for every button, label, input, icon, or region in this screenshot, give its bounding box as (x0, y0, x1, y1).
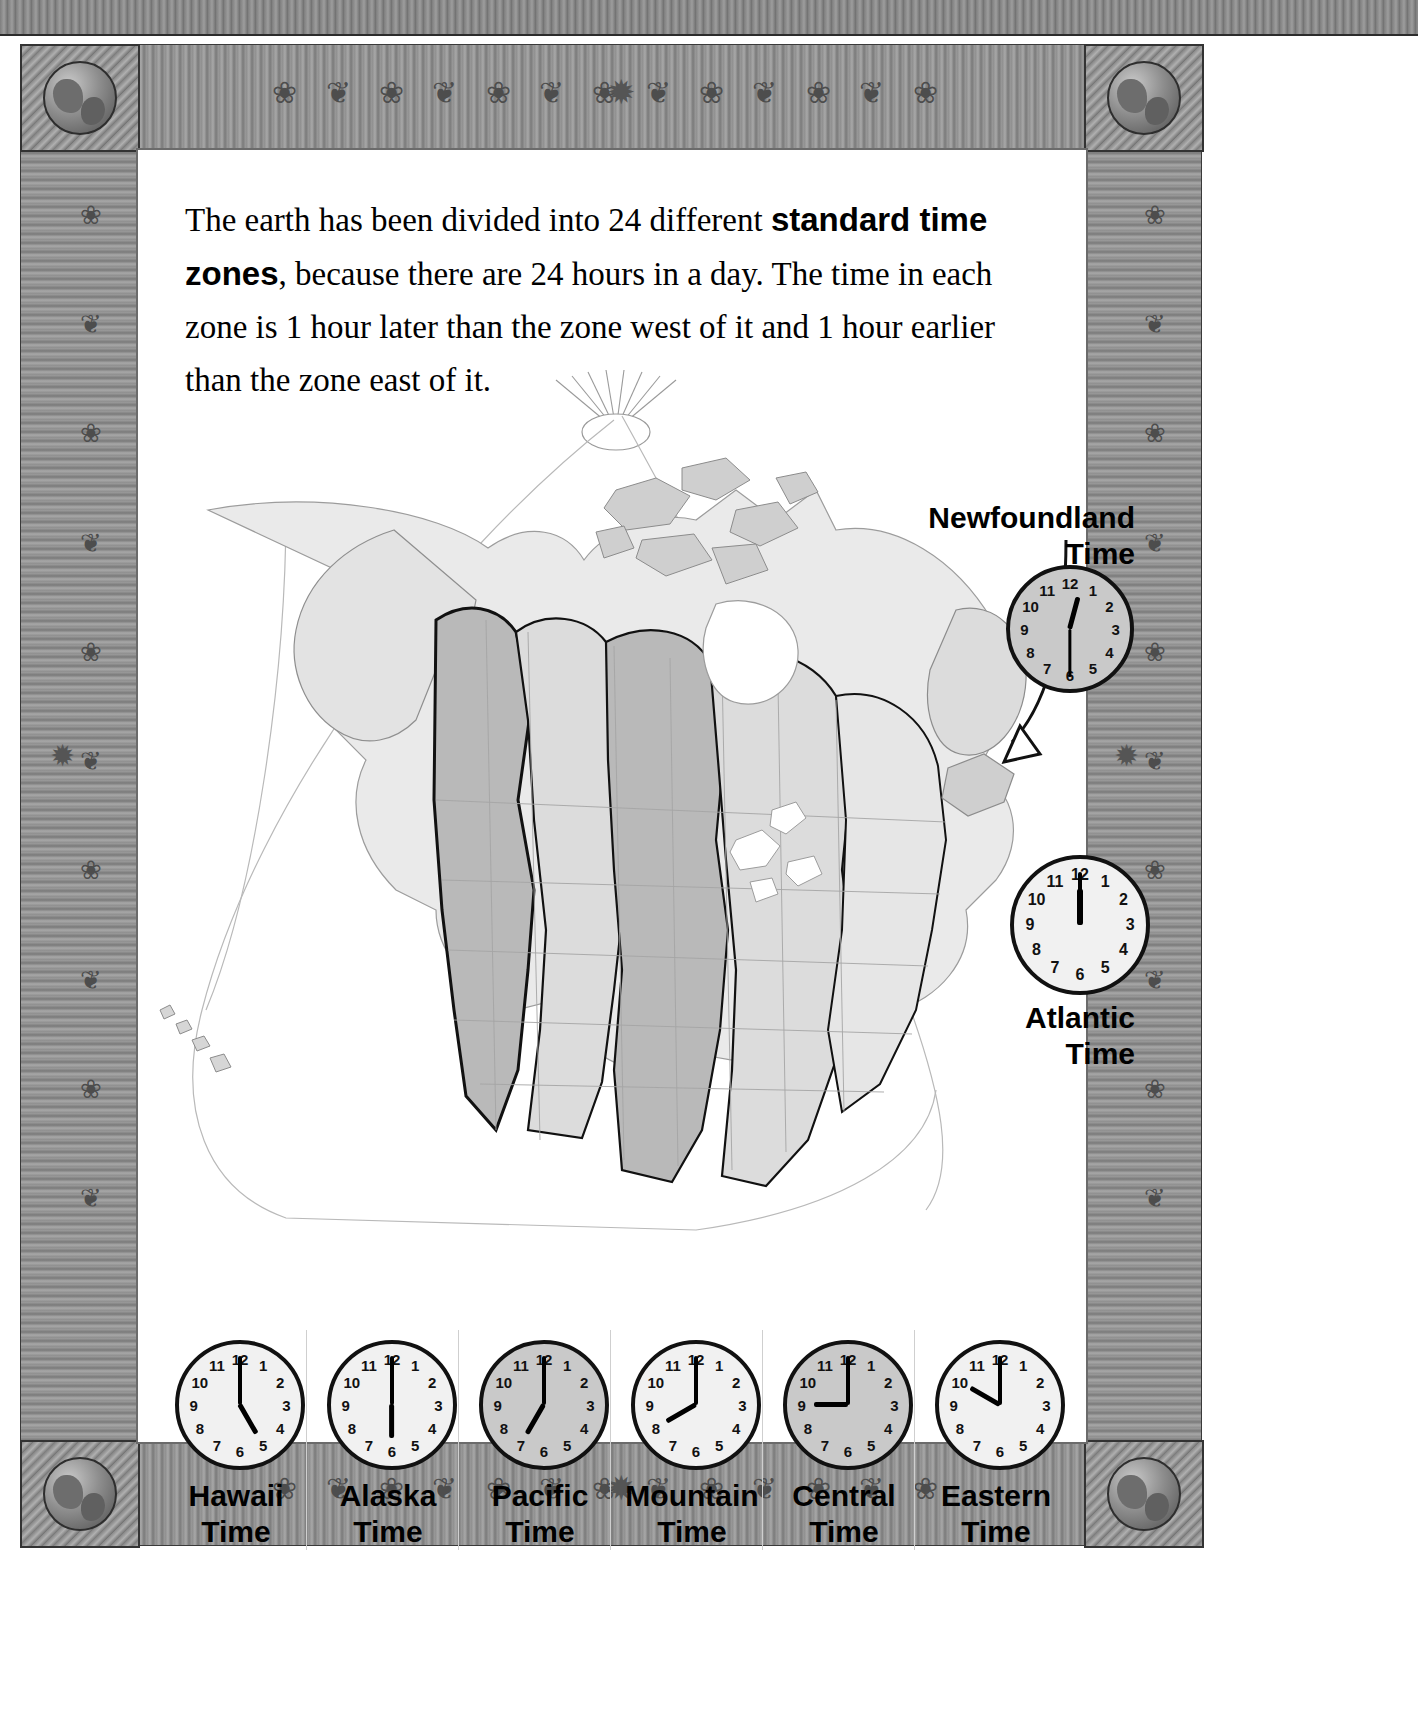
clock-numeral-11: 11 (817, 1356, 833, 1373)
clock-numeral-3: 3 (738, 1397, 746, 1414)
clock-minute-hand (846, 1356, 849, 1405)
clock-holder-alaska: 121234567891011 (312, 1340, 464, 1462)
clock-numeral-2: 2 (1105, 598, 1113, 615)
clock-numeral-4: 4 (732, 1420, 740, 1437)
clock-numeral-6: 6 (540, 1443, 548, 1460)
clock-numeral-1: 1 (1101, 873, 1110, 891)
clock-numeral-10: 10 (800, 1373, 817, 1390)
corner-globe-bottom-right (1084, 1440, 1204, 1548)
clock-numeral-11: 11 (969, 1356, 985, 1373)
clock-numeral-1: 1 (867, 1356, 875, 1373)
clock-numeral-6: 6 (1076, 966, 1085, 984)
clock-numeral-1: 1 (411, 1356, 419, 1373)
clock-minute-hand (694, 1356, 697, 1405)
zone-label-line2-atlantic: Time (900, 1036, 1135, 1072)
clock-numeral-3: 3 (890, 1397, 898, 1414)
sun-icon (556, 370, 676, 450)
clock-numeral-11: 11 (513, 1356, 529, 1373)
clock-hour-hand (389, 1405, 394, 1439)
clock-numeral-5: 5 (867, 1437, 875, 1454)
clock-numeral-6: 6 (844, 1443, 852, 1460)
clock-hour-hand (525, 1404, 546, 1436)
zone-label-alaska: AlaskaTime (312, 1478, 464, 1550)
clock-hour-hand (1068, 596, 1081, 629)
zone-card-central[interactable]: 121234567891011CentralTime (768, 1340, 920, 1550)
clock-numeral-10: 10 (344, 1373, 361, 1390)
zone-card-eastern[interactable]: 121234567891011EasternTime (920, 1340, 1072, 1550)
clock-holder-central: 121234567891011 (768, 1340, 920, 1462)
clock-numeral-1: 1 (259, 1356, 267, 1373)
clock-numeral-4: 4 (884, 1420, 892, 1437)
zone-label-atlantic: AtlanticTime (900, 1000, 1135, 1072)
zone-label-line1-mountain: Mountain (616, 1478, 768, 1514)
zone-label-line2-alaska: Time (312, 1514, 464, 1550)
star-ornament-left: ✹ (50, 738, 75, 773)
zone-label-line1-newfoundland: Newfoundland (900, 500, 1135, 536)
star-ornament-right: ✹ (1114, 738, 1139, 773)
zone-card-pacific[interactable]: 121234567891011PacificTime (464, 1340, 616, 1550)
zone-label-line2-newfoundland: Time (900, 536, 1135, 572)
clock-numeral-5: 5 (715, 1437, 723, 1454)
clock-numeral-7: 7 (1043, 660, 1051, 677)
zone-label-pacific: PacificTime (464, 1478, 616, 1550)
clock-numeral-3: 3 (586, 1397, 594, 1414)
clock-numeral-9: 9 (797, 1397, 805, 1414)
clock-numeral-3: 3 (1126, 916, 1135, 934)
clock-numeral-11: 11 (665, 1356, 681, 1373)
clock-numeral-4: 4 (1119, 941, 1128, 959)
zone-label-line2-mountain: Time (616, 1514, 768, 1550)
intro-part-1: The earth has been divided into 24 diffe… (185, 202, 771, 238)
clock-numeral-2: 2 (1119, 891, 1128, 909)
globe-icon (43, 61, 117, 135)
clock-minute-hand (390, 1356, 393, 1405)
clock-numeral-6: 6 (996, 1443, 1004, 1460)
hawaii-islands (160, 1005, 231, 1072)
zone-label-line1-alaska: Alaska (312, 1478, 464, 1514)
clock-hour-hand (666, 1403, 698, 1424)
clock-numeral-7: 7 (669, 1437, 677, 1454)
zone-card-separator (458, 1330, 459, 1550)
zone-label-line1-eastern: Eastern (920, 1478, 1072, 1514)
zone-label-line2-hawaii: Time (160, 1514, 312, 1550)
clock-numeral-5: 5 (411, 1437, 419, 1454)
zone-label-line1-atlantic: Atlantic (900, 1000, 1135, 1036)
clock-holder-pacific: 121234567891011 (464, 1340, 616, 1462)
globe-icon (43, 1457, 117, 1531)
clock-face-atlantic: 121234567891011 (1010, 855, 1150, 995)
clock-numeral-8: 8 (500, 1420, 508, 1437)
clock-hour-hand (1077, 889, 1083, 925)
clock-numeral-7: 7 (821, 1437, 829, 1454)
zone-card-alaska[interactable]: 121234567891011AlaskaTime (312, 1340, 464, 1550)
clock-numeral-6: 6 (692, 1443, 700, 1460)
zone-label-mountain: MountainTime (616, 1478, 768, 1550)
clock-numeral-3: 3 (282, 1397, 290, 1414)
clock-numeral-2: 2 (884, 1373, 892, 1390)
zone-label-line2-central: Time (768, 1514, 920, 1550)
clock-face-central: 121234567891011 (783, 1340, 913, 1470)
clock-face-pacific: 121234567891011 (479, 1340, 609, 1470)
clock-numeral-7: 7 (1050, 959, 1059, 977)
globe-icon (1107, 61, 1181, 135)
clock-numeral-11: 11 (209, 1356, 225, 1373)
clock-numeral-5: 5 (259, 1437, 267, 1454)
clock-numeral-9: 9 (1020, 621, 1028, 638)
clock-hour-hand (970, 1386, 1002, 1407)
zone-card-separator (306, 1330, 307, 1550)
zone-card-mountain[interactable]: 121234567891011MountainTime (616, 1340, 768, 1550)
clock-numeral-7: 7 (213, 1437, 221, 1454)
clock-minute-hand (238, 1356, 241, 1405)
clock-numeral-4: 4 (1036, 1420, 1044, 1437)
clock-numeral-8: 8 (1032, 941, 1041, 959)
corner-globe-bottom-left (20, 1440, 140, 1548)
page-root: ❀ ❦ ❀ ❦ ❀ ❦ ❀ ❦ ❀ ❦ ❀ ❦ ❀ ❀ ❦ ❀ ❦ ❀ ❦ ❀ … (0, 0, 1418, 1734)
clock-numeral-7: 7 (973, 1437, 981, 1454)
zone-card-hawaii[interactable]: 121234567891011HawaiiTime (160, 1340, 312, 1550)
clock-numeral-8: 8 (348, 1420, 356, 1437)
zone-label-eastern: EasternTime (920, 1478, 1072, 1550)
clock-minute-hand (1068, 629, 1071, 677)
clock-numeral-8: 8 (804, 1420, 812, 1437)
star-ornament-top: ✹ (607, 72, 635, 112)
clock-numeral-2: 2 (580, 1373, 588, 1390)
clock-face-newfoundland: 121234567891011 (1006, 565, 1134, 693)
clock-numeral-1: 1 (715, 1356, 723, 1373)
